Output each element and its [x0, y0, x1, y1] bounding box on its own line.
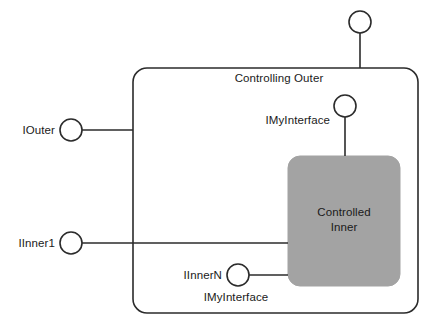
outer-top-interface-circle[interactable]	[349, 11, 371, 33]
iinner1-interface-label: IInner1	[18, 237, 55, 250]
iinner1-interface-circle[interactable]	[60, 232, 82, 254]
iinnern-interface-sublabel: IMyInterface	[204, 291, 268, 304]
imyinterface-inner-top-label: IMyInterface	[266, 114, 330, 127]
iouter-interface-label: IOuter	[22, 124, 55, 137]
controlling-outer-label: Controlling Outer	[235, 72, 324, 85]
controlled-inner-label-line2: Inner	[331, 221, 358, 234]
iouter-interface-circle[interactable]	[60, 119, 82, 141]
iinnern-interface-label: IInnerN	[184, 269, 222, 282]
imyinterface-inner-top-circle[interactable]	[334, 95, 356, 117]
iinnern-interface-circle[interactable]	[227, 264, 249, 286]
diagram-canvas: Controlling Outer Controlled Inner IOute…	[0, 0, 433, 324]
controlled-inner-label-line1: Controlled	[317, 206, 370, 219]
